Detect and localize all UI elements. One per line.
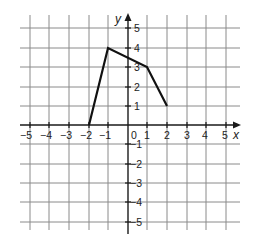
y-tick-label: −4 xyxy=(130,196,142,208)
x-tick-label: 2 xyxy=(164,129,170,141)
x-tick-label: 1 xyxy=(144,129,150,141)
y-tick-label: 1 xyxy=(134,100,140,112)
y-tick-label: −2 xyxy=(130,158,142,170)
y-tick-label: 4 xyxy=(134,42,140,54)
y-axis-arrow-icon xyxy=(125,13,132,21)
y-tick-label: −1 xyxy=(130,138,142,150)
y-tick-label: 2 xyxy=(134,81,140,93)
x-tick-label: −1 xyxy=(99,129,111,141)
y-tick-label: 5 xyxy=(134,22,140,34)
x-tick-label: 3 xyxy=(184,129,190,141)
x-tick-label: 4 xyxy=(202,129,208,141)
x-tick-label: −5 xyxy=(20,129,32,141)
y-tick-label: −5 xyxy=(130,216,142,228)
y-tick-label: −3 xyxy=(130,177,142,189)
x-tick-label: −2 xyxy=(80,129,92,141)
coordinate-plane: y x −5 −4 −3 −2 −1 0 1 2 3 4 5 5 4 3 2 1… xyxy=(0,0,255,245)
x-tick-label: −4 xyxy=(40,129,52,141)
x-axis-label: x xyxy=(232,128,240,142)
y-tick-label: 3 xyxy=(134,61,140,73)
x-tick-label: −3 xyxy=(60,129,72,141)
x-tick-label: 5 xyxy=(222,129,228,141)
y-axis-label: y xyxy=(114,12,122,26)
